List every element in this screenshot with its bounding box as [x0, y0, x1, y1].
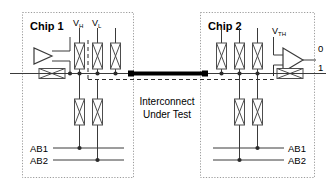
chip2-ab2-label: AB2: [288, 155, 306, 166]
chip2-switch-bottom-2[interactable]: [253, 99, 263, 125]
chip1-vl-label: VL: [92, 18, 102, 29]
chip2-ab1-label: AB1: [288, 143, 306, 154]
chip2-switch-top-2[interactable]: [235, 43, 245, 69]
interconnect-label-line2: Under Test: [143, 109, 191, 120]
chip1-switch-top-2[interactable]: [93, 43, 103, 69]
interconnect-label-line1: Interconnect: [139, 96, 194, 107]
circuit-diagram: Chip 1 Chip 2 VH VL: [0, 0, 336, 196]
chip1-ab-lines: [53, 148, 124, 160]
chip2-switch-bottom-1[interactable]: [235, 99, 245, 125]
chip1-vh-label: VH: [73, 18, 83, 29]
chip2-ab-lines: [213, 148, 284, 160]
chip2-vth-label: VTH: [272, 26, 286, 37]
chip1-switch-bottom-2[interactable]: [93, 99, 103, 125]
chip1-switch-top-1[interactable]: [75, 43, 85, 69]
chip2-ab1-node: [255, 146, 259, 150]
chip1-switch-top-3[interactable]: [111, 43, 121, 69]
chip2-label: Chip 2: [208, 20, 242, 32]
interconnect-node-left: [128, 71, 134, 77]
chip2-output-1-label: 1: [318, 62, 323, 73]
chip1-ab2-label: AB2: [30, 155, 48, 166]
chip2-switch-top-3[interactable]: [253, 43, 263, 69]
chip1-label: Chip 1: [30, 20, 64, 32]
chip2-output-0-label: 0: [318, 43, 323, 54]
chip1-ab1-node: [77, 146, 81, 150]
chip2-ab2-node: [237, 158, 241, 162]
interconnect-node-right: [202, 71, 208, 77]
chip1-ab2-node: [95, 158, 99, 162]
driver-triangle-icon: [34, 48, 52, 64]
chip2-switch-top-1[interactable]: [217, 43, 227, 69]
chip1-switch-bottom-1[interactable]: [75, 99, 85, 125]
diagram-canvas: Chip 1 Chip 2 VH VL: [0, 0, 336, 196]
chip1-ab1-label: AB1: [30, 143, 48, 154]
